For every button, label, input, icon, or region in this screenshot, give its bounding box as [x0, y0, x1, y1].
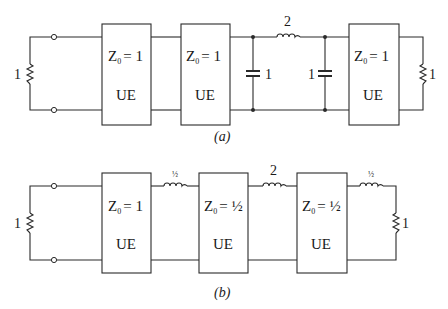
- source-resistor-icon: [27, 213, 33, 233]
- series-inductor-2-value: 2: [270, 163, 277, 178]
- inductor-icon: [360, 183, 383, 186]
- load-resistor-icon: [420, 64, 426, 84]
- unit-element-box-a2: [181, 24, 230, 125]
- unit-element-box-b2: [199, 173, 248, 273]
- ue-a2-label: UE: [195, 87, 215, 103]
- series-inductor-value: 2: [284, 14, 291, 29]
- load-top-wire: [399, 37, 423, 64]
- ue-a3-impedance: Z0= 1: [354, 48, 389, 66]
- ue-b1-impedance: Z0= 1: [108, 198, 143, 216]
- unit-element-box-b1: [102, 173, 151, 273]
- shunt-capacitor-1-value: 1: [265, 67, 272, 82]
- load-resistor-value: 1: [429, 67, 436, 82]
- load-bottom-wire: [399, 84, 423, 110]
- series-inductor-1-value: ½: [172, 170, 178, 179]
- diagram-a: 1 Z0= 1 UE Z0= 1 UE 1 2: [14, 14, 436, 145]
- inductor-icon: [164, 183, 187, 186]
- caption-a: (a): [214, 129, 231, 145]
- load-resistor-value: 1: [402, 216, 409, 231]
- load-bottom-wire: [347, 233, 396, 260]
- series-inductor-3-value: ½: [368, 170, 374, 179]
- circuit-figure: 1 Z0= 1 UE Z0= 1 UE 1 2: [0, 0, 448, 309]
- input-terminal-bottom: [51, 257, 56, 262]
- capacitor-icon: [318, 71, 332, 76]
- ue-a1-label: UE: [116, 87, 136, 103]
- unit-element-box-a3: [349, 24, 399, 125]
- source-resistor-value: 1: [14, 216, 21, 231]
- diagram-b: 1 Z0= 1 UE ½ Z0= ½ UE 2 Z0= ½ UE ½: [14, 163, 409, 301]
- input-terminal-top: [51, 183, 56, 188]
- inductor-icon: [263, 183, 286, 186]
- ue-b1-label: UE: [116, 236, 136, 252]
- source-resistor-value: 1: [14, 67, 21, 82]
- caption-b: (b): [214, 285, 231, 301]
- ue-b2-impedance: Z0= ½: [204, 198, 243, 216]
- ue-a2-impedance: Z0= 1: [186, 48, 221, 66]
- input-terminal-top: [51, 34, 56, 39]
- load-top-wire: [383, 186, 396, 213]
- source-top-wire: [30, 37, 54, 64]
- source-resistor-icon: [27, 64, 33, 84]
- input-terminal-bottom: [51, 107, 56, 112]
- capacitor-icon: [246, 71, 260, 76]
- shunt-capacitor-2-value: 1: [308, 67, 315, 82]
- unit-element-box-a1: [102, 24, 151, 125]
- ue-a3-label: UE: [363, 87, 383, 103]
- ue-b3-label: UE: [311, 236, 331, 252]
- ue-a1-impedance: Z0= 1: [108, 48, 143, 66]
- inductor-icon: [277, 34, 300, 37]
- source-bottom-wire: [30, 233, 54, 260]
- source-bottom-wire: [30, 84, 54, 110]
- source-top-wire: [30, 186, 54, 213]
- ue-b2-label: UE: [213, 236, 233, 252]
- ue-b3-impedance: Z0= ½: [302, 198, 341, 216]
- unit-element-box-b3: [297, 173, 347, 273]
- load-resistor-icon: [393, 213, 399, 233]
